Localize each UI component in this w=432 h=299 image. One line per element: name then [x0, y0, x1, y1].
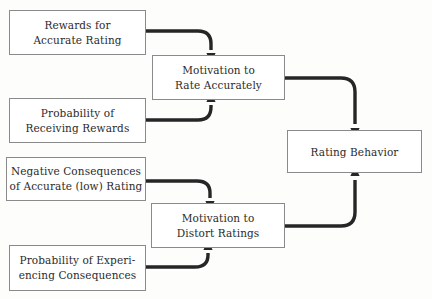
arrow-motivation-rate-accurately-to-rating-behavior — [285, 78, 360, 138]
rating-behavior-box: Rating Behavior — [287, 130, 422, 173]
arrow-motivation-distort-to-rating-behavior — [285, 166, 360, 226]
node-label-line: Distort Ratings — [177, 226, 260, 241]
node-label-line: Motivation to — [182, 63, 255, 78]
node-label-line: Accurate Rating — [33, 33, 121, 48]
node-label-line: Motivation to — [182, 211, 255, 226]
rating-behavior-diagram: Rewards forAccurate RatingProbability of… — [0, 0, 432, 299]
probability-of-experiencing-consequences-box: Probability of Experi-encing Consequence… — [9, 245, 146, 291]
motivation-to-rate-accurately-box: Motivation toRate Accurately — [152, 55, 285, 100]
probability-of-receiving-rewards-box: Probability ofReceiving Rewards — [9, 98, 146, 143]
node-label-line: Negative Consequences — [11, 164, 141, 179]
node-label-line: Receiving Rewards — [26, 121, 130, 136]
node-label-line: Probability of — [41, 106, 114, 121]
node-label-line: encing Consequences — [19, 268, 137, 283]
node-label-line: Rate Accurately — [175, 78, 262, 93]
node-label-line: of Accurate (low) Rating — [10, 179, 143, 194]
node-label-line: Rating Behavior — [311, 145, 399, 159]
node-label-line: Probability of Experi- — [20, 253, 136, 268]
negative-consequences-box: Negative Consequencesof Accurate (low) R… — [6, 157, 146, 201]
motivation-to-distort-ratings-box: Motivation toDistort Ratings — [151, 203, 285, 248]
rewards-for-accurate-rating-box: Rewards forAccurate Rating — [9, 10, 146, 55]
node-label-line: Rewards for — [44, 18, 110, 33]
